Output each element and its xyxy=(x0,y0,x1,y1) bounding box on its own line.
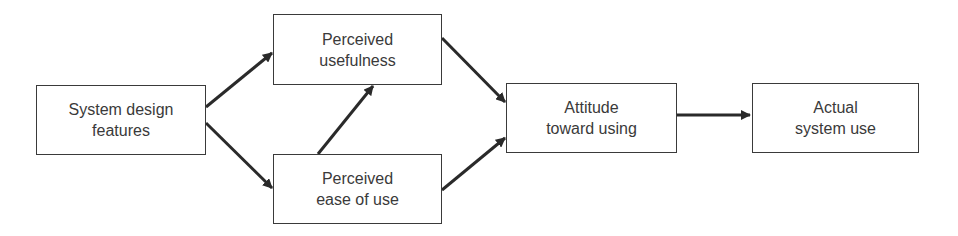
node-label-line: usefulness xyxy=(319,50,396,71)
arrow-sdf-to-peou xyxy=(206,123,272,188)
node-label-line: Attitude xyxy=(564,97,618,118)
node-label-line: system use xyxy=(795,118,876,139)
arrow-peou-to-att xyxy=(442,138,505,190)
arrow-peou-to-pu xyxy=(318,86,373,154)
node-perceived-usefulness: Perceived usefulness xyxy=(273,14,442,85)
node-label-line: System design xyxy=(69,99,174,120)
node-actual-system-use: Actual system use xyxy=(752,83,919,153)
node-perceived-ease-of-use: Perceived ease of use xyxy=(273,154,442,224)
node-label-line: features xyxy=(92,120,150,141)
arrow-sdf-to-pu xyxy=(206,53,272,107)
node-label-line: Actual xyxy=(813,97,857,118)
node-label-line: toward using xyxy=(546,118,637,139)
node-label-line: ease of use xyxy=(316,189,399,210)
node-label-line: Perceived xyxy=(322,29,393,50)
arrow-pu-to-att xyxy=(442,38,505,102)
node-label-line: Perceived xyxy=(322,168,393,189)
node-system-design-features: System design features xyxy=(36,85,206,155)
node-attitude-toward-using: Attitude toward using xyxy=(506,83,677,153)
